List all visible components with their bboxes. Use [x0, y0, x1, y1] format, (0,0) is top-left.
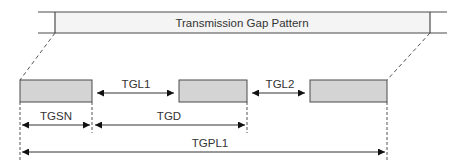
pattern-band: Transmission Gap Pattern	[38, 12, 447, 33]
tgsn-label: TGSN	[40, 110, 72, 122]
reference-lines	[20, 102, 387, 160]
tgl2-label: TGL2	[266, 78, 295, 90]
gap-2	[179, 80, 247, 102]
gap-1	[20, 80, 92, 102]
tgl1-label: TGL1	[122, 78, 151, 90]
tgpl1-label: TGPL1	[192, 137, 228, 149]
tgd-label: TGD	[157, 110, 181, 122]
zoom-guides	[20, 33, 430, 80]
pattern-title: Transmission Gap Pattern	[175, 17, 308, 29]
gap-boxes	[20, 80, 387, 102]
transmission-gap-diagram: Transmission Gap Pattern TGL1 TGL2 TGSN …	[0, 0, 463, 168]
gap-3	[310, 80, 387, 102]
